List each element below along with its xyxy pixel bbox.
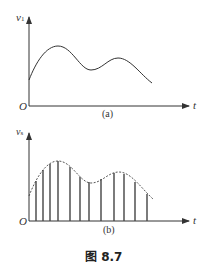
figure-caption: 图 8.7 <box>85 247 122 264</box>
x-axis-label-b: t <box>193 214 196 226</box>
signal-curve-a <box>29 46 152 83</box>
origin-label-a: O <box>19 100 27 112</box>
x-axis-label-a: t <box>193 99 196 111</box>
origin-label-b: O <box>19 215 27 227</box>
panel-a <box>29 17 189 106</box>
panel-b <box>29 133 189 221</box>
sample-lines <box>36 161 147 221</box>
panel-label-b: (b) <box>103 224 115 235</box>
y-axis-label-a: v1 <box>16 11 24 23</box>
panel-label-a: (a) <box>102 108 113 119</box>
y-axis-label-b: vs <box>16 126 23 137</box>
